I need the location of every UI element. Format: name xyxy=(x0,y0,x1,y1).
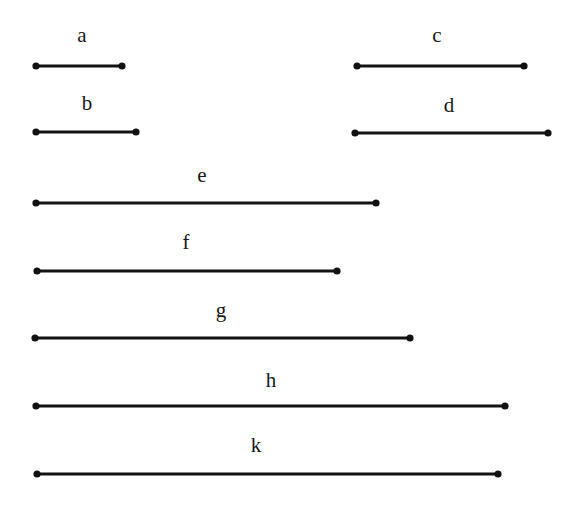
segment-b xyxy=(32,128,139,135)
segment-endpoint-k-start xyxy=(33,470,40,477)
segment-endpoint-h-end xyxy=(501,402,508,409)
segment-endpoint-c-start xyxy=(353,62,360,69)
segment-endpoint-h-start xyxy=(32,402,39,409)
segment-f xyxy=(33,267,340,274)
segment-endpoint-e-end xyxy=(372,199,379,206)
segment-endpoint-b-end xyxy=(132,128,139,135)
segment-label-k: k xyxy=(251,435,262,456)
segment-label-c: c xyxy=(432,25,441,46)
segment-label-b: b xyxy=(82,93,93,114)
segment-endpoint-g-end xyxy=(406,334,413,341)
segment-endpoint-d-end xyxy=(544,129,551,136)
segment-endpoint-b-start xyxy=(32,128,39,135)
segment-label-h: h xyxy=(266,370,277,391)
segment-endpoint-f-end xyxy=(333,267,340,274)
segment-d xyxy=(351,129,551,136)
segment-endpoint-k-end xyxy=(494,470,501,477)
segment-h xyxy=(32,402,508,409)
segment-endpoint-d-start xyxy=(351,129,358,136)
segment-endpoint-a-start xyxy=(32,62,39,69)
segment-endpoint-g-start xyxy=(31,334,38,341)
segment-endpoint-c-end xyxy=(520,62,527,69)
segment-a xyxy=(32,62,125,69)
segment-c xyxy=(353,62,527,69)
segment-label-a: a xyxy=(77,25,86,46)
segments-canvas xyxy=(0,0,577,507)
segment-label-f: f xyxy=(183,232,190,253)
segment-endpoint-f-start xyxy=(33,267,40,274)
segment-label-e: e xyxy=(197,165,206,186)
segment-label-d: d xyxy=(444,95,455,116)
segment-k xyxy=(33,470,501,477)
segment-e xyxy=(32,199,379,206)
segment-endpoint-a-end xyxy=(118,62,125,69)
segment-g xyxy=(31,334,413,341)
segment-label-g: g xyxy=(216,300,227,321)
line-segment-figure: abcdefghk xyxy=(0,0,577,507)
segment-endpoint-e-start xyxy=(32,199,39,206)
